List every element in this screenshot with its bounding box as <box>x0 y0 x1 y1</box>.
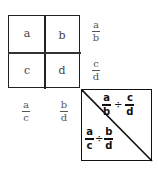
numerator: c <box>93 59 99 69</box>
col-fraction-b-over-d: b d <box>60 100 68 123</box>
denominator: d <box>105 141 112 151</box>
numerator: b <box>61 100 67 110</box>
denominator: d <box>61 113 67 123</box>
denominator: c <box>23 113 29 123</box>
denominator: b <box>93 33 99 43</box>
fraction-b-over-d: b d <box>104 127 113 151</box>
divide-operator: ÷ <box>114 99 122 110</box>
division-triangle-box: a b ÷ c d a c ÷ b d <box>81 89 152 161</box>
numerator: a <box>23 100 29 110</box>
lower-expression: a c ÷ b d <box>85 127 113 151</box>
cell-c: c <box>17 64 37 77</box>
denominator: c <box>87 141 93 151</box>
numerator: b <box>105 127 112 137</box>
row-fraction-a-over-b: a b <box>92 20 100 43</box>
cell-a: a <box>17 27 37 40</box>
numerator: a <box>103 93 110 103</box>
denominator: d <box>93 72 99 82</box>
col-fraction-a-over-c: a c <box>22 100 30 123</box>
numerator: a <box>93 20 99 30</box>
row-fraction-c-over-d: c d <box>92 59 100 82</box>
numerator: a <box>86 127 93 137</box>
fraction-c-over-d: c d <box>125 93 134 117</box>
upper-expression: a b ÷ c d <box>102 93 134 117</box>
fraction-a-over-c: a c <box>85 127 94 151</box>
numerator: c <box>127 93 133 103</box>
denominator: d <box>126 107 133 117</box>
grid-horizontal-divider <box>8 52 81 54</box>
fraction-a-over-b: a b <box>102 93 111 117</box>
denominator: b <box>103 107 110 117</box>
cell-d: d <box>52 64 72 77</box>
divide-operator: ÷ <box>95 133 103 144</box>
cell-b: b <box>52 29 72 42</box>
